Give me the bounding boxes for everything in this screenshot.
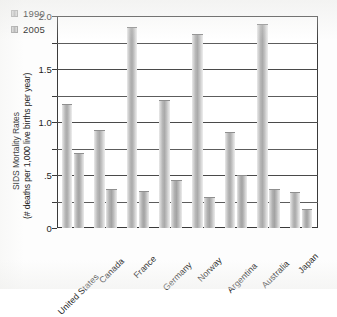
y-axis-title-line1: SIDS Mortality Rates — [11, 112, 21, 190]
plot-area — [57, 16, 318, 228]
bar — [290, 192, 301, 228]
bar — [139, 191, 150, 228]
bar-group — [192, 16, 215, 228]
bar — [106, 189, 117, 228]
bar — [127, 27, 138, 228]
bar — [94, 130, 105, 228]
bar-group — [257, 16, 280, 228]
y-tick-mark — [52, 122, 57, 123]
y-tick-mark — [52, 149, 57, 150]
x-axis-label: Germany — [161, 260, 194, 293]
bar — [257, 24, 268, 228]
legend-label-2005: 2005 — [23, 24, 45, 35]
y-tick-mark — [52, 175, 57, 176]
bar-group — [225, 16, 248, 228]
x-axis-label: Australia — [259, 259, 291, 291]
y-tick-mark — [52, 16, 57, 17]
bar — [302, 209, 313, 228]
x-axis-label: Japan — [296, 251, 320, 275]
legend-label-1990: 1990 — [23, 8, 45, 19]
x-axis-label: United States — [56, 272, 101, 317]
x-axis-label: Norway — [196, 255, 224, 283]
bar — [225, 132, 236, 228]
bar — [269, 189, 280, 228]
bar — [192, 34, 203, 228]
bar — [237, 175, 248, 228]
bar-group — [127, 16, 150, 228]
bar — [62, 104, 73, 228]
bar-group — [159, 16, 182, 228]
bar-group — [94, 16, 117, 228]
bar — [204, 197, 215, 228]
bar-group — [62, 16, 85, 228]
y-tick-mark — [52, 202, 57, 203]
y-tick-mark — [52, 228, 57, 229]
bar — [171, 180, 182, 228]
x-axis-label: France — [132, 254, 159, 281]
bar — [74, 153, 85, 228]
legend-entry-1990: 1990 — [11, 6, 45, 20]
x-axis-category-labels: United StatesCanadaFranceGermanyNorwayAr… — [57, 231, 318, 289]
y-tick-mark — [52, 69, 57, 70]
y-axis-tick-marks — [52, 16, 58, 228]
chart-legend: 1990 2005 — [11, 6, 45, 38]
bars-layer — [57, 16, 318, 228]
y-axis-title-line2: (# deaths per 1,000 live births per year… — [22, 73, 32, 219]
y-tick-mark — [52, 96, 57, 97]
legend-entry-2005: 2005 — [11, 22, 45, 36]
bar-group — [290, 16, 313, 228]
y-tick-mark — [52, 43, 57, 44]
bar — [159, 100, 170, 228]
legend-swatch-1990-icon — [11, 10, 18, 17]
x-axis-label: Argentina — [225, 261, 259, 295]
x-axis-label: Canada — [98, 256, 127, 285]
legend-swatch-2005-icon — [11, 26, 18, 33]
